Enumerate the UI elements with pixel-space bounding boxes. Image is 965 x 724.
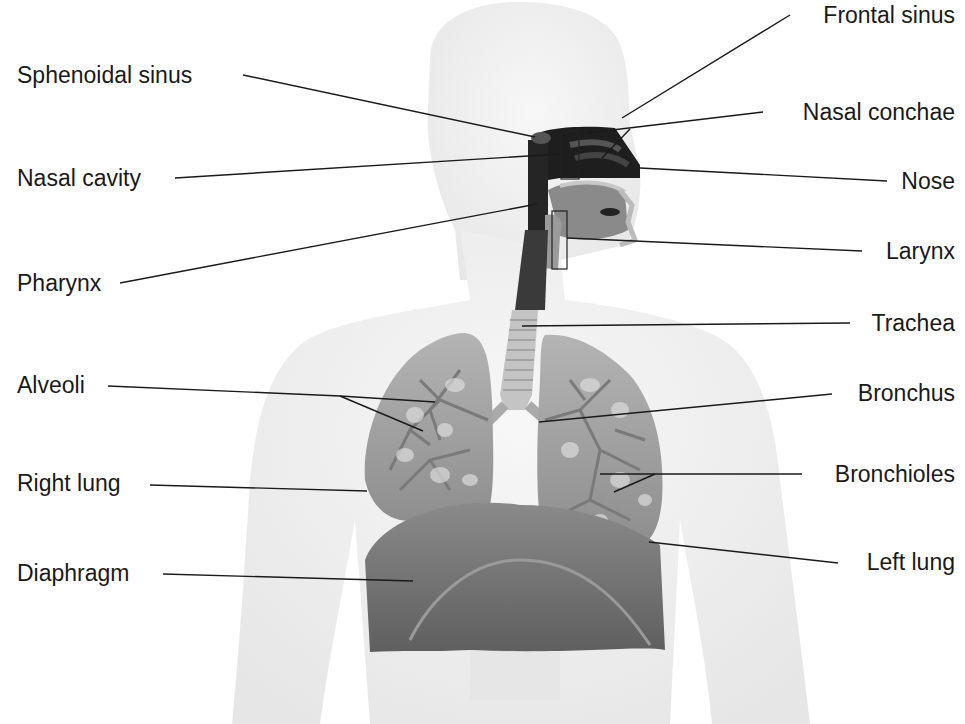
head-cross-section — [515, 127, 640, 310]
label-nasal-cavity: Nasal cavity — [17, 165, 141, 191]
label-nose: Nose — [901, 168, 955, 194]
label-pharynx: Pharynx — [17, 270, 101, 296]
label-bronchioles: Bronchioles — [835, 461, 955, 487]
label-frontal-sinus: Frontal sinus — [823, 2, 955, 28]
label-sphenoidal-sinus: Sphenoidal sinus — [17, 62, 192, 88]
label-bronchus: Bronchus — [858, 380, 955, 406]
leader-nose — [640, 168, 887, 181]
label-larynx: Larynx — [886, 238, 955, 264]
label-right-lung: Right lung — [17, 470, 121, 496]
label-nasal-conchae: Nasal conchae — [803, 99, 955, 125]
leader-frontal-sinus — [622, 15, 790, 118]
label-alveoli: Alveoli — [17, 372, 85, 398]
label-diaphragm: Diaphragm — [17, 560, 130, 586]
label-left-lung: Left lung — [867, 549, 955, 575]
label-trachea: Trachea — [871, 310, 955, 336]
